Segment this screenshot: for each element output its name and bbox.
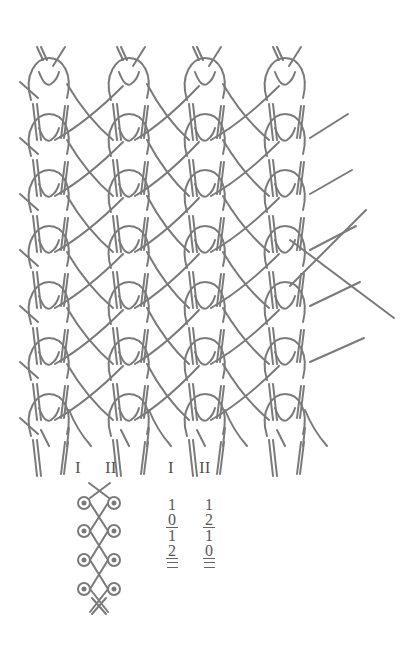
- lapping-notation-bar-I: 1 0 1 2: [166, 497, 178, 568]
- guide-bar-label-II: II: [105, 458, 116, 478]
- repeat-mark: [204, 562, 215, 568]
- notation-value: 2: [203, 512, 215, 528]
- notation-value: 1: [203, 497, 215, 512]
- lapping-notation-bar-II: 1 2 1 0: [203, 497, 215, 568]
- notation-label-I: I: [168, 458, 174, 478]
- notation-value: 1: [203, 528, 215, 543]
- notation-value: 0: [203, 543, 215, 559]
- notation-value: 2: [166, 543, 178, 559]
- repeat-mark: [167, 562, 178, 568]
- notation-value: 0: [166, 512, 178, 528]
- notation-label-II: II: [199, 458, 210, 478]
- notation-value: 1: [166, 497, 178, 512]
- guide-bar-label-I: I: [75, 458, 81, 478]
- notation-value: 1: [166, 528, 178, 543]
